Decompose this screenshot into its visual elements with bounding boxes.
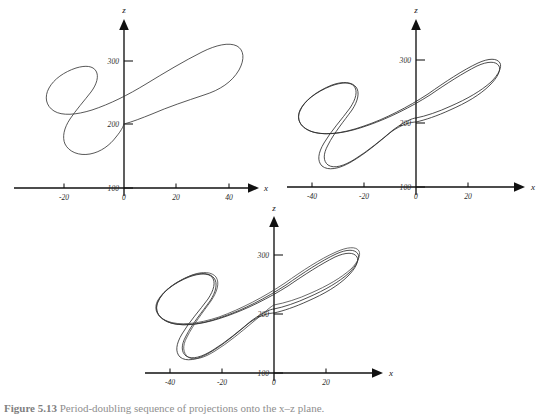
panel-3-ytick-label-0: 100 xyxy=(258,369,270,378)
panel-2-xtick-label-0: -40 xyxy=(307,192,317,201)
panel-1-ytick-label-0: 100 xyxy=(108,184,120,193)
x-axis-arrowhead xyxy=(248,183,259,193)
panel-1-z-axis-label: z xyxy=(121,5,126,15)
panel-3-xtick-label-0: -40 xyxy=(165,378,175,387)
panel-1-x-axis: -20 0 20 40 x xyxy=(14,183,268,202)
panel-3-curve-branch-b xyxy=(156,250,358,358)
panel-3-x-axis: -40 -20 0 20 x xyxy=(145,368,393,387)
panel-2-canvas: -40 -20 0 20 x 300 200 100 z xyxy=(285,0,553,205)
panel-1-xtick-label-2: 20 xyxy=(172,193,180,202)
panel-1-ytick-label-2: 300 xyxy=(107,57,120,66)
panel-1-z-axis: 300 200 100 z xyxy=(107,5,133,196)
panel-3-xtick-label-1: -20 xyxy=(217,378,227,387)
z-axis-arrowhead xyxy=(269,216,279,227)
panel-2-ytick-label-0: 100 xyxy=(400,183,412,192)
panel-2-z-axis-label: z xyxy=(413,5,418,15)
panel-1-curve-period-1 xyxy=(46,44,243,154)
panel-3-x-axis-label: x xyxy=(388,368,393,378)
panel-2-x-axis: -40 -20 0 20 x xyxy=(287,182,535,201)
figure-caption-text: Period-doubling sequence of projections … xyxy=(60,402,325,414)
panel-2-xtick-label-1: -20 xyxy=(359,192,369,201)
panel-3-xtick-label-3: 20 xyxy=(322,378,330,387)
x-axis-arrowhead xyxy=(372,368,383,378)
panel-3-curve-branch-a xyxy=(157,253,358,360)
panel-2-curve-branch-a xyxy=(299,62,500,169)
figure-caption-label: Figure 5.13 xyxy=(4,402,57,414)
panel-1-orbit-series xyxy=(46,44,243,154)
panel-3-z-axis: 300 200 100 z xyxy=(257,203,283,381)
panel-1-canvas: -20 0 20 40 x 300 200 100 z xyxy=(0,0,280,205)
panel-3-ytick-label-1: 200 xyxy=(258,310,270,319)
panel-1-xtick-label-0: -20 xyxy=(59,193,69,202)
panel-1-x-axis-label: x xyxy=(263,183,268,193)
chart-panel-1: -20 0 20 40 x 300 200 100 z xyxy=(0,0,280,205)
x-axis-arrowhead xyxy=(514,182,525,192)
panel-2-xtick-label-3: 20 xyxy=(464,192,472,201)
panel-3-ytick-label-2: 300 xyxy=(257,251,270,260)
panel-2-orbit-series xyxy=(298,59,500,169)
chart-panel-2: -40 -20 0 20 x 300 200 100 z xyxy=(285,0,553,205)
panel-3-canvas: -40 -20 0 20 x 300 200 100 z xyxy=(143,205,411,390)
panel-2-ytick-label-1: 200 xyxy=(400,119,412,128)
panel-3-orbit-series xyxy=(156,248,360,360)
panel-3-z-axis-label: z xyxy=(271,203,276,213)
figure-caption: Figure 5.13 Period-doubling sequence of … xyxy=(4,402,549,415)
panel-1-xtick-label-3: 40 xyxy=(225,193,233,202)
panel-2-x-axis-label: x xyxy=(530,182,535,192)
panel-1-ytick-label-1: 200 xyxy=(108,120,120,129)
chart-panel-3: -40 -20 0 20 x 300 200 100 z xyxy=(143,205,411,390)
panel-2-curve-branch-b xyxy=(298,59,500,167)
z-axis-arrowhead xyxy=(119,19,129,30)
z-axis-arrowhead xyxy=(411,19,421,30)
panel-2-ytick-label-2: 300 xyxy=(399,56,412,65)
